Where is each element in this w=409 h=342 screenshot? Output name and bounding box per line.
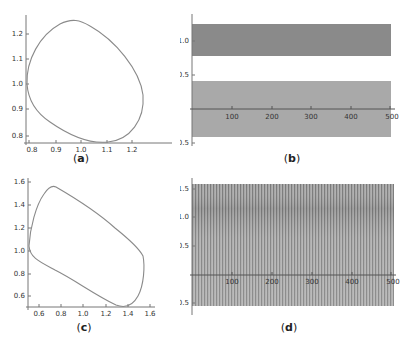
time-series-plot-d: 1.5 1.0 0.5 −0.5 100 200 300 400 500: [180, 170, 409, 342]
svg-text:0.8: 0.8: [12, 132, 23, 140]
svg-text:0.5: 0.5: [180, 71, 189, 79]
svg-text:1.0: 1.0: [77, 310, 88, 318]
svg-text:300: 300: [305, 278, 318, 286]
svg-text:1.0: 1.0: [180, 213, 189, 221]
svg-text:500: 500: [385, 113, 398, 121]
svg-text:1.0: 1.0: [14, 247, 25, 255]
panel-a: 0.8 0.9 1.0 1.1 1.2 0.8 0.9 1.0 1.1 1.2 …: [0, 0, 180, 170]
svg-text:1.0: 1.0: [180, 37, 189, 45]
svg-text:1.4: 1.4: [14, 201, 26, 209]
limit-cycle-curve-a: [27, 20, 143, 142]
svg-text:500: 500: [386, 278, 399, 286]
svg-text:0.9: 0.9: [12, 105, 23, 113]
svg-text:0.5: 0.5: [180, 242, 189, 250]
svg-text:200: 200: [265, 113, 278, 121]
panel-c: 0.6 0.8 1.0 1.2 1.4 1.6 0.6 0.8 1.0 1.2 …: [0, 170, 180, 342]
svg-text:1.2: 1.2: [12, 30, 23, 38]
svg-text:0.8: 0.8: [14, 270, 25, 278]
caption-c: (c): [64, 321, 104, 334]
upper-band: [192, 24, 391, 56]
svg-text:300: 300: [304, 113, 317, 121]
svg-text:0.8: 0.8: [55, 310, 66, 318]
svg-text:1.5: 1.5: [180, 185, 189, 193]
phase-plot-a: 0.8 0.9 1.0 1.1 1.2 0.8 0.9 1.0 1.1 1.2: [0, 0, 180, 170]
svg-text:1.2: 1.2: [126, 146, 137, 154]
caption-b: (b): [272, 152, 312, 165]
panel-b: 1.0 0.5 −0.5 100 200 300 400 500 (b): [180, 0, 409, 170]
svg-text:1.2: 1.2: [14, 224, 25, 232]
svg-text:400: 400: [345, 278, 358, 286]
svg-text:1.4: 1.4: [122, 310, 134, 318]
svg-text:0.9: 0.9: [50, 146, 61, 154]
svg-text:1.6: 1.6: [14, 178, 26, 186]
svg-text:1.1: 1.1: [12, 55, 23, 63]
caption-d: (d): [269, 321, 309, 334]
svg-text:0.6: 0.6: [14, 292, 26, 300]
svg-text:−0.5: −0.5: [180, 299, 189, 307]
caption-a: (a): [61, 152, 101, 165]
svg-text:−0.5: −0.5: [180, 139, 189, 147]
svg-text:0.8: 0.8: [26, 146, 37, 154]
svg-text:100: 100: [225, 113, 238, 121]
svg-text:0.6: 0.6: [33, 310, 45, 318]
time-series-plot-b: 1.0 0.5 −0.5 100 200 300 400 500: [180, 0, 409, 170]
svg-text:1.6: 1.6: [144, 310, 156, 318]
svg-text:1.0: 1.0: [12, 80, 23, 88]
svg-text:400: 400: [344, 113, 357, 121]
svg-text:200: 200: [265, 278, 278, 286]
svg-text:1.2: 1.2: [100, 310, 111, 318]
panel-d: 1.5 1.0 0.5 −0.5 100 200 300 400 500 (d): [180, 170, 409, 342]
svg-text:1.1: 1.1: [101, 146, 112, 154]
svg-text:100: 100: [225, 278, 238, 286]
limit-cycle-curve-c: [29, 186, 144, 306]
phase-plot-c: 0.6 0.8 1.0 1.2 1.4 1.6 0.6 0.8 1.0 1.2 …: [0, 170, 180, 342]
